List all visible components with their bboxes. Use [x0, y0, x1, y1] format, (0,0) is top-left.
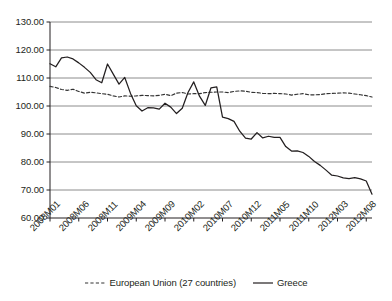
chart-plot-area — [0, 0, 392, 301]
y-tick-label: 90.00 — [0, 129, 44, 139]
chart-container: 130.00120.00110.00100.0090.0080.0070.006… — [0, 0, 392, 301]
chart-legend: European Union (27 countries) Greece — [0, 277, 392, 288]
legend-label-greece: Greece — [277, 277, 308, 288]
y-tick-label: 80.00 — [0, 157, 44, 167]
legend-dashed-line-icon — [84, 279, 106, 287]
legend-solid-line-icon — [252, 279, 274, 287]
y-tick-label: 130.00 — [0, 17, 44, 27]
legend-item-greece[interactable]: Greece — [252, 277, 308, 288]
y-tick-label: 70.00 — [0, 185, 44, 195]
y-tick-label: 120.00 — [0, 45, 44, 55]
y-tick-label: 100.00 — [0, 101, 44, 111]
y-tick-label: 110.00 — [0, 73, 44, 83]
legend-label-eu: European Union (27 countries) — [109, 277, 235, 288]
legend-item-eu[interactable]: European Union (27 countries) — [84, 277, 235, 288]
